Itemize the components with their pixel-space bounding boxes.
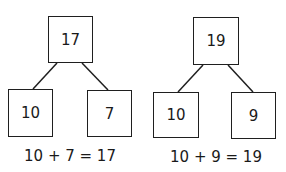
whole-value: 17 (61, 31, 80, 49)
part-box-right: 9 (231, 92, 276, 139)
equation: 10 + 9 = 19 (156, 148, 276, 166)
part-value: 10 (21, 104, 40, 122)
whole-value: 19 (206, 32, 225, 50)
part-box-left: 10 (153, 92, 199, 138)
part-box-right: 7 (87, 90, 132, 137)
whole-box: 19 (193, 17, 239, 65)
part-value: 10 (166, 106, 185, 124)
part-value: 7 (105, 105, 115, 123)
part-value: 9 (249, 107, 259, 125)
whole-box: 17 (48, 16, 93, 63)
part-box-left: 10 (8, 89, 53, 137)
equation: 10 + 7 = 17 (10, 147, 130, 165)
